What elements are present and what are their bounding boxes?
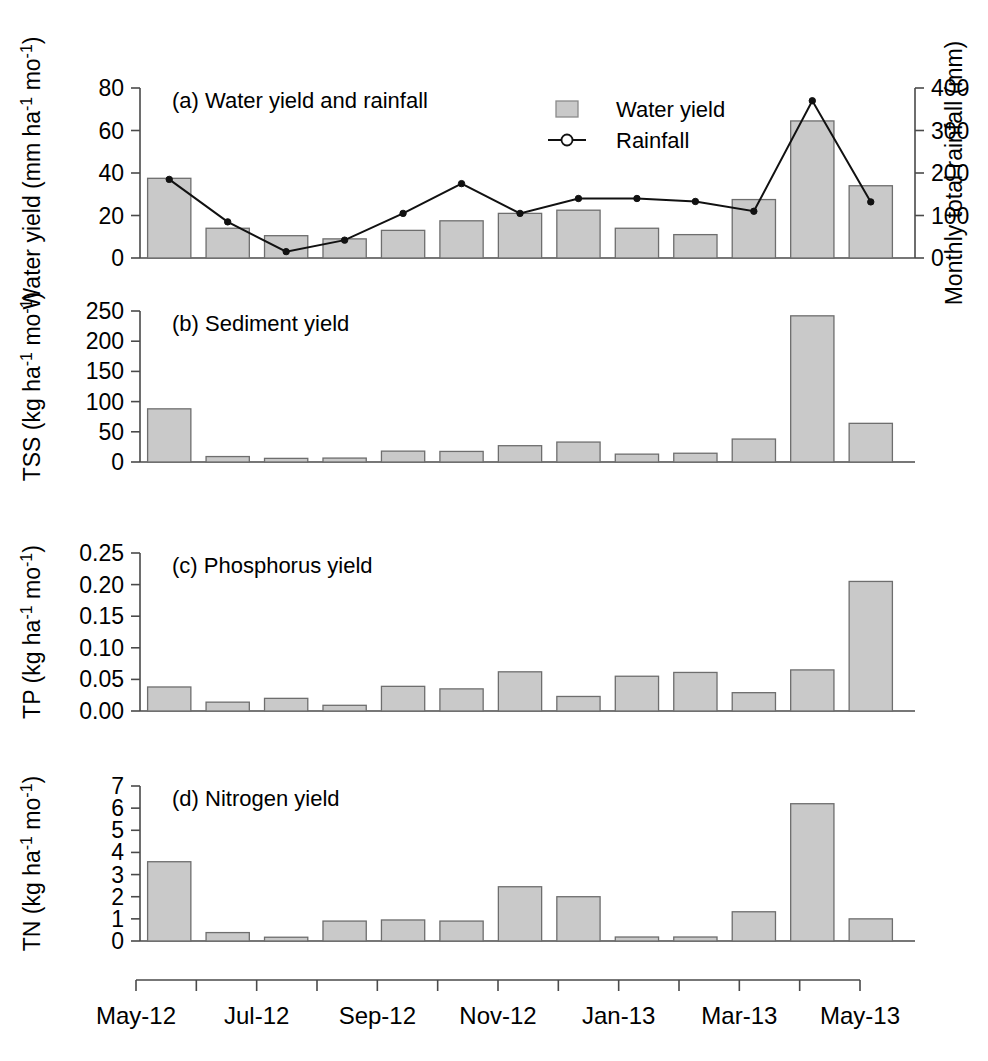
x-tick-label: Jul-12 (224, 1002, 289, 1029)
bar (674, 235, 717, 258)
rainfall-marker (868, 199, 874, 205)
rainfall-marker (283, 248, 289, 254)
x-tick-label: Nov-12 (459, 1002, 536, 1029)
bar (791, 804, 834, 941)
bar (323, 921, 366, 941)
legend: Water yieldRainfall (548, 97, 725, 153)
panel-d-ytick-label: 3 (111, 862, 124, 888)
panel-a-ytick-label: 60 (98, 118, 124, 144)
bar (557, 897, 600, 941)
panel-b-ytick-label: 150 (86, 358, 124, 384)
panel-c-ytick-label: 0.20 (79, 572, 124, 598)
panel-c-bar-group (148, 581, 893, 711)
bar (849, 581, 892, 711)
panel-b-ytick-label: 100 (86, 389, 124, 415)
panel-d: 01234567TN (kg ha-1 mo-1)(d) Nitrogen yi… (18, 773, 915, 954)
bar (381, 920, 424, 941)
panel-d-ytick-label: 0 (111, 928, 124, 954)
bar (615, 454, 658, 462)
panel-d-ytick-label: 2 (111, 884, 124, 910)
bar (498, 213, 541, 258)
panel-b-ytick-label: 0 (111, 449, 124, 475)
bar (265, 698, 308, 711)
panel-a-y2-axis-title: Monthly total rainfall (mm) (941, 41, 967, 306)
panel-a-ytick-label: 80 (98, 75, 124, 101)
x-tick-label: May-13 (820, 1002, 900, 1029)
panel-a-ytick-label: 40 (98, 160, 124, 186)
bar (498, 446, 541, 462)
panel-a-ytick-label: 20 (98, 203, 124, 229)
legend-label-water-yield: Water yield (616, 97, 725, 122)
panel-d-ytick-label: 7 (111, 773, 124, 799)
panel-c-ytick-label: 0.05 (79, 666, 124, 692)
bar (791, 121, 834, 258)
rainfall-marker (400, 210, 406, 216)
panel-c-ytick-label: 0.00 (79, 698, 124, 724)
panel-d-ytick-label: 6 (111, 795, 124, 821)
panel-b-ytick-label: 50 (98, 419, 124, 445)
panel-c-y-axis-title: TP (kg ha-1 mo-1) (18, 545, 45, 719)
bar (557, 442, 600, 462)
legend-swatch-water-yield (556, 101, 578, 117)
legend-circle-rainfall (562, 135, 573, 146)
bar (557, 210, 600, 258)
bar (732, 693, 775, 711)
panel-d-ytick-label: 5 (111, 817, 124, 843)
x-tick-label: Sep-12 (339, 1002, 416, 1029)
rainfall-marker (166, 176, 172, 182)
panel-b-y-axis-title: TSS (kg ha-1 mo-1) (18, 292, 45, 482)
x-tick-label: Mar-13 (701, 1002, 777, 1029)
rainfall-marker (341, 237, 347, 243)
bar (440, 921, 483, 941)
bar (791, 670, 834, 711)
bar (265, 458, 308, 462)
bar (849, 423, 892, 462)
bar (557, 696, 600, 711)
panel-d-ytick-label: 4 (111, 839, 124, 865)
bar (440, 451, 483, 462)
x-tick-label: May-12 (96, 1002, 176, 1029)
bar (615, 228, 658, 258)
bar (265, 937, 308, 941)
bar (381, 686, 424, 711)
bar (615, 937, 658, 941)
bar (323, 458, 366, 462)
bar (206, 702, 249, 711)
panel-d-bar-group (148, 804, 893, 941)
figure-container: 020406080Water yield (mm ha-1 mo-1)(a) W… (0, 0, 988, 1061)
bar (206, 457, 249, 462)
bar (498, 887, 541, 941)
bar (206, 228, 249, 258)
x-tick-label: Jan-13 (582, 1002, 655, 1029)
x-axis: May-12Jul-12Sep-12Nov-12Jan-13Mar-13May-… (96, 980, 900, 1029)
bar (732, 439, 775, 462)
panel-a: 020406080Water yield (mm ha-1 mo-1)(a) W… (18, 36, 969, 309)
panel-b-ytick-label: 200 (86, 328, 124, 354)
panel-c-ytick-label: 0.15 (79, 603, 124, 629)
multi-panel-chart: 020406080Water yield (mm ha-1 mo-1)(a) W… (0, 0, 988, 1061)
legend-label-rainfall: Rainfall (616, 128, 689, 153)
bar (615, 676, 658, 711)
bar (674, 672, 717, 711)
bar (323, 705, 366, 711)
bar (791, 316, 834, 462)
panel-a-title: (a) Water yield and rainfall (172, 88, 428, 113)
bar (732, 912, 775, 941)
bar (498, 672, 541, 711)
panel-c-ytick-label: 0.25 (79, 540, 124, 566)
rainfall-marker (517, 210, 523, 216)
panel-d-y-axis-title: TN (kg ha-1 mo-1) (18, 776, 45, 951)
panel-c-ytick-label: 0.10 (79, 635, 124, 661)
rainfall-marker (575, 195, 581, 201)
bar (381, 230, 424, 258)
rainfall-marker (809, 98, 815, 104)
bar (674, 937, 717, 941)
bar (849, 186, 892, 258)
panel-c-title: (c) Phosphorus yield (172, 553, 373, 578)
rainfall-marker (224, 219, 230, 225)
panel-d-title: (d) Nitrogen yield (172, 786, 340, 811)
bar (440, 689, 483, 711)
panel-b-ytick-label: 250 (86, 298, 124, 324)
bar (440, 221, 483, 258)
rainfall-marker (634, 195, 640, 201)
